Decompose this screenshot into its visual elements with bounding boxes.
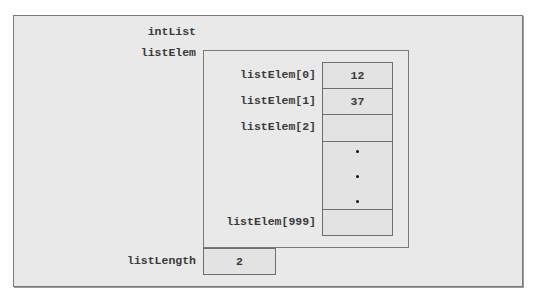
array-cell-999 <box>322 209 393 236</box>
array-cell-0: 12 <box>322 62 393 89</box>
ellipsis-dot <box>356 150 359 153</box>
array-cell-2 <box>322 114 393 142</box>
element-label-0: listElem[0] <box>216 68 316 82</box>
array-cell-1: 37 <box>322 88 393 115</box>
element-label-999: listElem[999] <box>206 215 316 229</box>
array-field-label: listElem <box>100 46 196 60</box>
element-label-1: listElem[1] <box>216 94 316 108</box>
element-label-2: listElem[2] <box>216 120 316 134</box>
length-value-box: 2 <box>203 248 276 275</box>
length-field-label: listLength <box>90 254 196 268</box>
ellipsis-dot <box>356 175 359 178</box>
struct-name-label: intList <box>120 25 196 39</box>
ellipsis-dot <box>356 200 359 203</box>
